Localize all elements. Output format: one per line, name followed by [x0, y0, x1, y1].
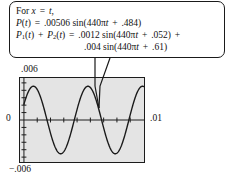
y-axis-min-label: −.006: [9, 164, 31, 174]
callout-var-t-2: t: [106, 18, 109, 28]
callout-phase-1: .052: [151, 30, 168, 40]
callout-close-paren-4: ): [62, 30, 65, 40]
callout-equals-2: =: [68, 30, 76, 40]
callout-amplitude-P: .00506: [44, 18, 70, 28]
graph-window: [19, 77, 145, 163]
callout-token-x: x: [32, 6, 36, 16]
callout-close-paren-6: ): [164, 42, 167, 52]
callout-line-p1-plus-p2: P1(t) + P2(t) = .0012 sin(440πt + .052) …: [16, 30, 182, 42]
y-axis-max-label: .006: [21, 64, 38, 74]
callout-freq-2: 440: [116, 30, 130, 40]
x-axis-max-label: .01: [150, 113, 162, 123]
callout-sin-1: sin: [72, 18, 83, 28]
callout-plus-5: +: [141, 42, 149, 52]
callout-close-paren-3: ): [31, 30, 34, 40]
callout-token-for: For: [16, 6, 29, 16]
callout-phase-2: .61: [152, 42, 164, 52]
waveform-plot: [20, 78, 144, 162]
callout-line-intro: For x = t,: [16, 6, 54, 16]
callout-line-p-of-t: P(t) = .00506 sin(440πt + .484): [16, 18, 141, 28]
callout-freq-1: 440: [87, 18, 101, 28]
callout-sin-3: sin: [103, 42, 114, 52]
callout-close-paren-5: ): [168, 30, 171, 40]
callout-equals-1: =: [33, 18, 41, 28]
callout-phase-P: .484: [121, 18, 138, 28]
callout-symbol-P1: P1: [16, 30, 25, 40]
equations-callout-box: For x = t, P(t) = .00506 sin(440πt + .48…: [9, 1, 225, 58]
callout-symbol-P2: P2: [47, 30, 56, 40]
callout-close-paren-2: ): [138, 18, 141, 28]
callout-plus-1: +: [111, 18, 119, 28]
callout-amplitude-1: .0012: [78, 30, 99, 40]
callout-var-t-5: t: [135, 30, 138, 40]
callout-amplitude-2: .004: [84, 42, 101, 52]
callout-plus-2: +: [36, 30, 44, 40]
callout-line-p1-plus-p2-continued: .004 sin(440πt + .61): [84, 42, 167, 52]
callout-plus-3: +: [140, 30, 148, 40]
callout-var-t-6: t: [136, 42, 139, 52]
callout-sin-2: sin: [102, 30, 113, 40]
callout-token-equals: =: [38, 6, 46, 16]
callout-plus-4: +: [173, 30, 181, 40]
callout-token-comma: ,: [52, 6, 54, 16]
callout-freq-3: 440: [117, 42, 131, 52]
callout-close-paren-1: ): [28, 18, 31, 28]
figure-root: For x = t, P(t) = .00506 sin(440πt + .48…: [0, 0, 236, 185]
y-axis-zero-label: 0: [6, 113, 11, 123]
